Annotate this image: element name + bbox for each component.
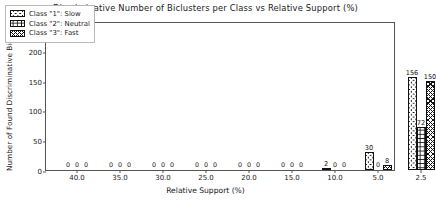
legend-swatch-icon [10, 10, 25, 18]
legend-item: Class "1": Slow [10, 9, 90, 19]
x-tick-mark [206, 170, 207, 173]
y-tick-label: 150 [29, 79, 42, 87]
x-tick-mark [77, 170, 78, 173]
x-tick-mark [421, 170, 422, 173]
x-tick-label: 35.0 [112, 174, 128, 182]
bar-value-label: 0 [66, 161, 70, 169]
bar-value-label: 0 [170, 161, 174, 169]
legend-item-label: Class "2": Neutral [29, 20, 90, 28]
bar-value-label: 0 [127, 161, 131, 169]
bar: 72 [417, 127, 426, 170]
bar-value-label: 0 [376, 161, 380, 169]
bar-value-label: 0 [213, 161, 217, 169]
bar-value-label: 0 [238, 161, 242, 169]
bar-value-label: 30 [365, 144, 373, 152]
chart-legend: Class "1": SlowClass "2": NeutralClass "… [5, 5, 95, 43]
bar-value-label: 72 [417, 119, 425, 127]
x-tick-mark [335, 170, 336, 173]
plot-inner: 050100150200250 40.035.030.025.020.015.0… [46, 23, 394, 170]
bar: 156 [408, 77, 417, 170]
y-tick-mark [43, 172, 46, 173]
y-tick-mark [43, 112, 46, 113]
plot-area: 050100150200250 40.035.030.025.020.015.0… [45, 22, 395, 171]
x-tick-label: 5.0 [372, 174, 383, 182]
x-tick-label: 20.0 [241, 174, 257, 182]
bar-value-label: 0 [256, 161, 260, 169]
bar-value-label: 2 [324, 160, 328, 168]
bar-value-label: 0 [84, 161, 88, 169]
bar-value-label: 0 [109, 161, 113, 169]
bar-value-label: 0 [195, 161, 199, 169]
bar-value-label: 0 [152, 161, 156, 169]
bar-value-label: 0 [75, 161, 79, 169]
bar: 30 [365, 152, 374, 170]
bar-value-label: 0 [247, 161, 251, 169]
y-tick-mark [43, 52, 46, 53]
bar-value-label: 150 [424, 73, 436, 81]
x-axis-label: Relative Support (%) [0, 186, 411, 195]
bar-value-label: 156 [406, 69, 419, 77]
y-tick-mark [43, 82, 46, 83]
x-tick-label: 10.0 [327, 174, 343, 182]
y-tick-label: 50 [33, 138, 42, 146]
y-tick-mark [43, 142, 46, 143]
legend-swatch-icon [10, 20, 25, 28]
x-tick-mark [120, 170, 121, 173]
x-tick-label: 25.0 [198, 174, 214, 182]
legend-item: Class "3": Fast [10, 29, 90, 39]
x-tick-mark [249, 170, 250, 173]
bar: 8 [383, 165, 392, 170]
x-tick-label: 30.0 [155, 174, 171, 182]
bar-value-label: 0 [161, 161, 165, 169]
bar: 150 [426, 81, 435, 170]
x-tick-label: 40.0 [69, 174, 85, 182]
x-tick-mark [163, 170, 164, 173]
bar-value-label: 0 [333, 161, 337, 169]
legend-item-label: Class "3": Fast [29, 29, 78, 37]
bar-value-label: 8 [385, 157, 389, 165]
bar-value-label: 0 [342, 161, 346, 169]
x-tick-mark [378, 170, 379, 173]
y-tick-label: 0 [38, 168, 42, 176]
bar-value-label: 0 [118, 161, 122, 169]
bar-value-label: 0 [290, 161, 294, 169]
bar-value-label: 0 [281, 161, 285, 169]
y-tick-label: 200 [29, 49, 42, 57]
x-tick-mark [292, 170, 293, 173]
legend-item-label: Class "1": Slow [29, 10, 81, 18]
legend-item: Class "2": Neutral [10, 19, 90, 29]
x-tick-label: 2.5 [415, 174, 426, 182]
bar: 2 [322, 168, 331, 170]
y-tick-label: 100 [29, 108, 42, 116]
bar-value-label: 0 [299, 161, 303, 169]
y-axis-label: Number of Found Discriminative Bicluster… [5, 22, 17, 171]
bar-value-label: 0 [204, 161, 208, 169]
x-tick-label: 15.0 [284, 174, 300, 182]
legend-swatch-icon [10, 30, 25, 38]
